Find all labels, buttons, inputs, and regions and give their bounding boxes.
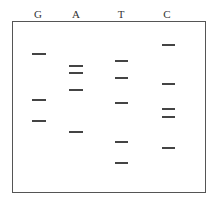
band-c [162,108,175,110]
band-c [162,116,175,118]
band-a [69,89,83,91]
lane-label-g: G [34,8,42,20]
band-g [32,53,46,55]
lane-label-c: C [163,8,170,20]
band-t [115,162,128,164]
lane-label-t: T [118,8,125,20]
band-a [69,131,83,133]
lane-label-a: A [72,8,80,20]
band-c [162,44,175,46]
band-g [32,120,46,122]
band-a [69,72,83,74]
gel-frame [12,21,206,193]
band-c [162,83,175,85]
band-c [162,147,175,149]
band-t [115,77,128,79]
band-a [69,65,83,67]
band-t [115,60,128,62]
band-t [115,141,128,143]
band-t [115,102,128,104]
band-g [32,99,46,101]
